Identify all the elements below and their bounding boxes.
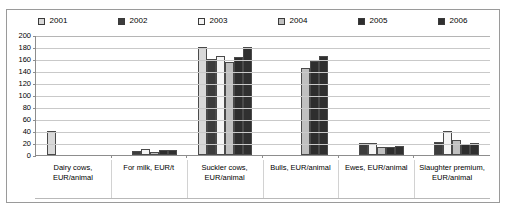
chart-screenshot: 200120022003200420052006 200180160140120… [0,0,508,212]
gridline [36,60,490,61]
x-label-divider [338,160,339,198]
bar-2005 [461,144,470,155]
y-axis-tick-label: 200 [18,32,31,40]
legend-label: 2005 [369,17,387,25]
y-axis-tick-label: 20 [23,140,31,148]
gridline [36,72,490,73]
y-axis-tick-label: 60 [23,116,31,124]
y-axis-tick-mark [33,156,36,157]
bar-2006 [168,150,177,155]
legend-item-2004: 2004 [278,17,307,25]
x-axis-tick-mark [111,155,112,158]
gridline [36,132,490,133]
y-axis-tick-label: 80 [23,104,31,112]
y-axis-tick-mark [33,144,36,145]
bar-2005 [159,150,168,155]
gridline [36,96,490,97]
y-axis-tick-mark [33,72,36,73]
legend-swatch-icon [278,18,285,25]
x-axis-tick-mark [338,155,339,158]
chart-frame: 200120022003200420052006 200180160140120… [6,9,500,203]
x-axis-label: Dairy cows, EUR/animal [35,160,111,206]
x-axis-tick-mark [413,155,414,158]
legend-item-2006: 2006 [438,17,467,25]
y-axis-tick-label: 120 [18,80,31,88]
y-axis-tick-label: 100 [18,92,31,100]
y-axis-tick-label: 180 [18,44,31,52]
x-axis-label: Suckler cows, EUR/animal [187,160,263,206]
x-axis-tick-mark [262,155,263,158]
bar-2004 [452,140,461,155]
y-axis-tick-mark [33,132,36,133]
bar-2002 [132,151,141,155]
x-label-divider [187,160,188,198]
y-axis-tick-mark [33,84,36,85]
bar-2005 [386,147,395,155]
y-axis-tick-mark [33,108,36,109]
legend-label: 2003 [209,17,227,25]
legend-item-2003: 2003 [198,17,227,25]
legend-item-2002: 2002 [118,17,147,25]
gridline [36,48,490,49]
legend-swatch-icon [118,18,125,25]
gridline [36,144,490,145]
bar-2002 [207,59,216,155]
y-axis-tick-mark [33,120,36,121]
bar-2001 [47,131,56,155]
plot-area [35,36,490,156]
gridline [36,108,490,109]
x-axis-label: Slaughter premium, EUR/animal [414,160,490,206]
bar-2004 [377,147,386,155]
legend-swatch-icon [198,18,205,25]
y-axis-labels: 200180160140120100806040200 [7,32,33,152]
legend-swatch-icon [438,18,445,25]
y-axis-tick-label: 140 [18,68,31,76]
y-axis-tick-mark [33,48,36,49]
bar-2003 [443,131,452,155]
gridline [36,120,490,121]
x-label-divider [111,160,112,198]
chart-legend: 200120022003200420052006 [7,10,499,32]
legend-swatch-icon [358,18,365,25]
x-axis-label: Ewes, EUR/animal [338,160,414,206]
legend-item-2005: 2005 [358,17,387,25]
gridline [36,36,490,37]
legend-label: 2006 [449,17,467,25]
bar-2003 [141,149,150,155]
x-axis-label: Bulls, EUR/animal [262,160,338,206]
y-axis-tick-label: 40 [23,128,31,136]
x-axis-labels: Dairy cows, EUR/animalFor milk, EUR/tSuc… [35,160,490,206]
x-label-divider [414,160,415,198]
gridline [36,84,490,85]
bar-2004 [301,68,310,155]
x-axis-label: For milk, EUR/t [111,160,187,206]
bar-2006 [243,47,252,155]
legend-label: 2001 [49,17,67,25]
x-label-divider [263,160,264,198]
x-axis-tick-mark [186,155,187,158]
legend-swatch-icon [38,18,45,25]
y-axis-tick-label: 0 [27,152,31,160]
legend-item-2001: 2001 [38,17,67,25]
bar-2006 [395,146,404,155]
bar-2003 [216,56,225,155]
legend-label: 2002 [129,17,147,25]
bar-2001 [198,47,207,155]
y-axis-tick-label: 160 [18,56,31,64]
y-axis-tick-mark [33,96,36,97]
y-axis-tick-mark [33,60,36,61]
bar-2006 [319,56,328,155]
plot-wrapper: 200180160140120100806040200 Dairy cows, … [7,32,499,202]
y-axis-tick-mark [33,36,36,37]
legend-label: 2004 [289,17,307,25]
x-axis-bottom-rule [35,198,490,199]
bar-2004 [150,152,159,155]
